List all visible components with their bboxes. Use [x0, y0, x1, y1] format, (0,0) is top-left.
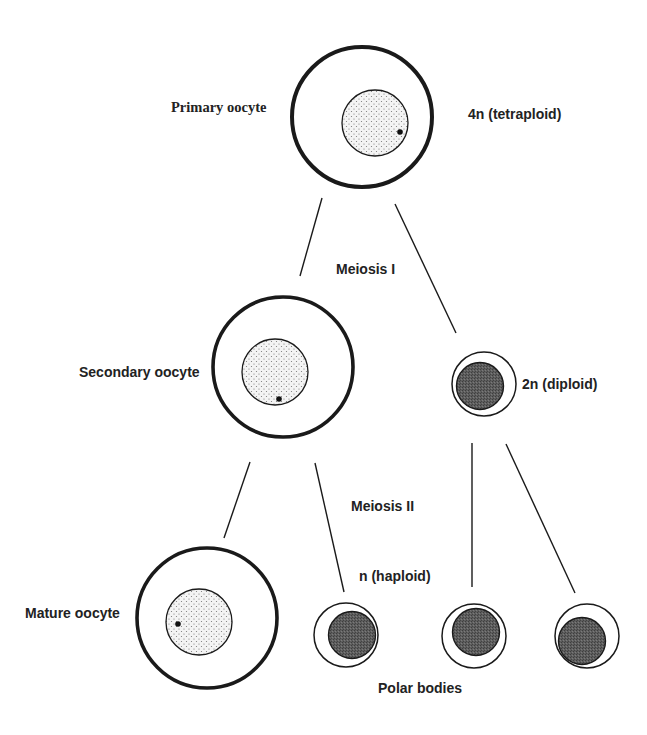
secondary-oocyte-nucleolus: [276, 396, 282, 402]
label-secondary-oocyte: Secondary oocyte: [79, 364, 200, 380]
mature-oocyte-nucleus: [166, 589, 232, 655]
label-haploid: n (haploid): [359, 568, 431, 584]
polar-body-3: [555, 604, 619, 668]
polar-body-1: [314, 603, 378, 667]
first-polar-body: [452, 352, 516, 416]
primary-oocyte: [292, 47, 432, 187]
line-first-polar-to-polar-body-3: [506, 444, 575, 593]
secondary-oocyte: [213, 297, 353, 437]
label-primary-oocyte: Primary oocyte: [171, 99, 266, 115]
label-meiosis-1: Meiosis I: [336, 261, 395, 277]
label-meiosis-2: Meiosis II: [351, 498, 414, 514]
polar-body-2-core: [453, 609, 500, 656]
label-polar-bodies: Polar bodies: [378, 680, 462, 696]
line-secondary-to-polar-body-1: [315, 463, 344, 592]
line-secondary-to-mature: [224, 462, 250, 538]
polar-body-2: [442, 604, 506, 668]
line-primary-to-first-polar-body: [395, 204, 456, 333]
primary-oocyte-nucleus: [342, 90, 408, 156]
polar-body-3-core: [559, 618, 606, 665]
label-mature-oocyte: Mature oocyte: [25, 605, 120, 621]
mature-oocyte-nucleolus: [175, 621, 181, 627]
label-diploid: 2n (diploid): [522, 376, 597, 392]
primary-oocyte-nucleolus: [397, 129, 403, 135]
mature-oocyte: [137, 548, 277, 688]
secondary-oocyte-nucleus: [242, 339, 308, 405]
line-primary-to-secondary: [300, 198, 322, 276]
first-polar-body-core: [457, 363, 504, 410]
polar-body-1-core: [329, 612, 376, 659]
label-tetraploid: 4n (tetraploid): [468, 106, 561, 122]
